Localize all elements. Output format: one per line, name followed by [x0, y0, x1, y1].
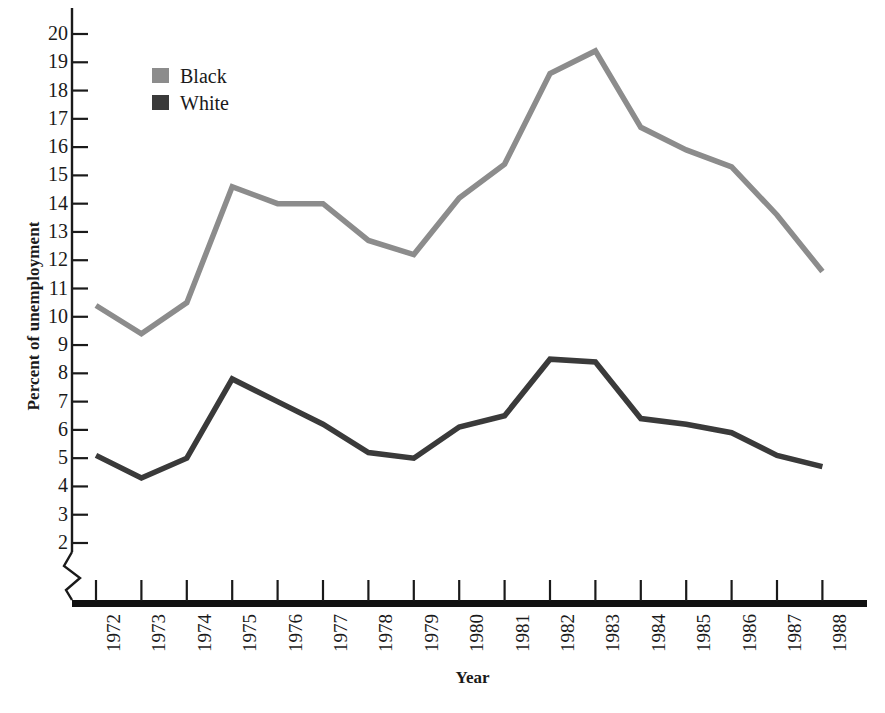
x-axis-title: Year	[0, 668, 885, 688]
x-tick-label: 1979	[422, 614, 441, 704]
x-tick-label: 1975	[240, 614, 259, 704]
unemployment-line-chart: Percent of unemployment 2345678910111213…	[0, 0, 885, 713]
legend-item-white: White	[152, 89, 332, 116]
x-tick-label: 1980	[467, 614, 486, 704]
x-tick-label: 1981	[513, 614, 532, 704]
x-tick-label: 1987	[785, 614, 804, 704]
x-tick-label: 1986	[740, 614, 759, 704]
x-tick-label: 1988	[830, 614, 849, 704]
x-tick-label: 1972	[104, 614, 123, 704]
plot-area	[0, 0, 885, 713]
series-line-white	[96, 359, 822, 478]
x-axis-tick-labels: 1972197319741975197619771978197919801981…	[0, 614, 885, 710]
x-tick-label: 1984	[649, 614, 668, 704]
legend-label: Black	[180, 66, 227, 86]
y-axis-tick-marks	[72, 34, 88, 543]
x-tick-label: 1976	[286, 614, 305, 704]
legend-swatch-icon	[152, 68, 169, 83]
x-tick-label: 1982	[558, 614, 577, 704]
x-tick-label: 1974	[195, 614, 214, 704]
x-tick-label: 1977	[331, 614, 350, 704]
x-axis-baseline	[72, 600, 867, 607]
legend-item-black: Black	[152, 62, 332, 89]
y-axis-break-marker	[64, 552, 80, 600]
x-tick-label: 1973	[149, 614, 168, 704]
x-axis-tick-marks	[96, 580, 822, 601]
x-tick-label: 1985	[694, 614, 713, 704]
x-tick-label: 1983	[603, 614, 622, 704]
x-tick-label: 1978	[376, 614, 395, 704]
legend-swatch-icon	[152, 95, 169, 110]
legend-label: White	[180, 93, 229, 113]
legend: BlackWhite	[152, 62, 332, 116]
